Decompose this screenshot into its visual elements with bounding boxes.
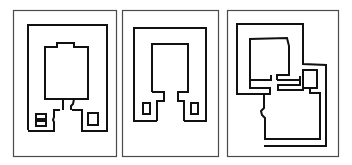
enclosure-wall [28, 25, 107, 131]
central-room-with-pedestal [152, 44, 188, 121]
enclosure-wall [134, 28, 206, 121]
panel-plan-3 [228, 11, 339, 157]
passage [63, 99, 74, 110]
lower-area-wall [261, 76, 320, 139]
panel-plan-1 [14, 11, 117, 157]
small-room-right [191, 103, 198, 114]
panel-frame [228, 11, 339, 157]
panel-plan-2 [123, 11, 219, 157]
small-room-left-bottom [36, 121, 46, 126]
small-room-right [303, 70, 317, 88]
left-corridor [250, 80, 271, 94]
small-room-right [88, 113, 98, 125]
small-room-left [143, 103, 150, 114]
panel-frame [123, 11, 219, 157]
upper-room [250, 38, 289, 80]
central-room [45, 43, 88, 99]
small-room-left-top [36, 114, 46, 119]
